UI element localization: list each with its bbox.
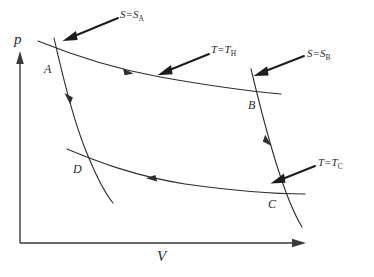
annotation-s-sa-arrowhead	[63, 31, 78, 41]
annotation-s-sa-leader	[72, 18, 118, 37]
isotherm-hot-group	[38, 41, 281, 94]
annotation-t-tc-arrowhead	[271, 174, 286, 184]
pressure-axis-arrowhead	[16, 51, 24, 64]
volume-axis-label: V	[157, 249, 166, 264]
isotherm-cold-flow-arrowhead	[146, 175, 157, 182]
axes-group	[16, 51, 306, 247]
annotation-label-s-sb: S=SB	[307, 48, 330, 59]
adiabat-right-group	[251, 69, 302, 227]
annotation-label-s-sa: S=SA	[120, 9, 144, 20]
state-point-label-a: A	[44, 63, 51, 75]
annotation-label-t-th: T=TH	[211, 44, 236, 55]
annotation-s-sb-text: S=S	[307, 47, 325, 59]
state-point-label-b: B	[248, 99, 255, 111]
annotation-t-th-arrowhead	[158, 65, 173, 75]
adiabat-left-curve	[54, 38, 113, 203]
pressure-axis-label: p	[14, 32, 22, 47]
annotation-s-sb-arrowhead	[254, 66, 269, 76]
annotation-arrows-group	[63, 18, 316, 184]
annotation-t-th-text: T=T	[211, 43, 231, 55]
adiabat-left-group	[54, 38, 113, 203]
annotation-s-sb-leader	[263, 56, 304, 72]
adiabat-right-flow-arrowhead	[263, 135, 272, 146]
annotation-s-sb-subscript: B	[325, 53, 330, 62]
isotherm-hot-flow-arrowhead	[123, 69, 134, 76]
annotation-t-th-leader	[167, 54, 209, 71]
isotherm-hot-curve	[38, 41, 281, 94]
annotation-t-tc-leader	[280, 166, 315, 180]
annotation-s-sa-text: S=S	[120, 8, 138, 20]
annotation-label-t-tc: T=TC	[318, 157, 343, 168]
annotation-t-th-subscript: H	[231, 49, 236, 58]
annotation-t-tc-subscript: C	[338, 162, 343, 171]
volume-axis-arrowhead	[292, 239, 306, 247]
annotation-s-sa-subscript: A	[138, 14, 143, 23]
adiabat-right-curve	[251, 69, 302, 227]
pv-diagram-canvas	[0, 0, 374, 277]
state-point-label-c: C	[268, 198, 276, 210]
annotation-t-tc-text: T=T	[318, 156, 338, 168]
state-point-label-d: D	[73, 163, 82, 175]
adiabat-left-flow-arrowhead	[64, 93, 73, 104]
pv-diagram-figure: p V A B C D S=SA T=TH S=SB T=TC	[0, 0, 374, 277]
